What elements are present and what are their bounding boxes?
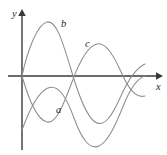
y-axis-label: y: [11, 8, 17, 19]
coordinate-plot: y x a b c: [0, 0, 167, 155]
curve-label-a: a: [56, 104, 61, 115]
curve-c: [22, 44, 145, 122]
x-axis-arrowhead: [156, 72, 163, 80]
figure-root: y x a b c: [0, 0, 167, 155]
curve-label-b: b: [61, 18, 66, 29]
y-axis-arrowhead: [18, 9, 26, 16]
x-axis-label: x: [155, 81, 161, 92]
curve-label-c: c: [85, 38, 90, 49]
curve-b: [22, 22, 145, 124]
curve-a: [22, 76, 145, 147]
